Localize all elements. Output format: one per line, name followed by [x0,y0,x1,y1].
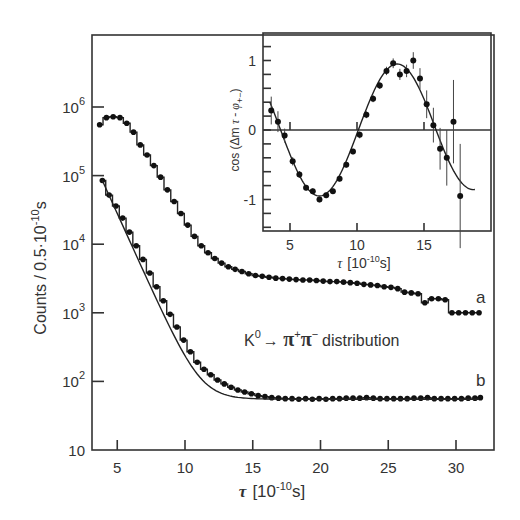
series-b-point [201,367,207,373]
inset-data-point [282,133,288,139]
inset-data-point [377,83,383,89]
inset-data-point [343,162,349,168]
series-b-point [188,349,194,355]
inset-data-point [457,193,463,199]
inset-data-point [424,101,430,107]
series-a-point [361,282,367,288]
series-a-point [280,276,286,282]
series-a-point [117,115,123,121]
series-a-point [198,243,204,249]
series-a-point [307,277,313,283]
x-tick-label: 25 [380,459,397,476]
series-a-point [436,296,442,302]
inset-data-point [397,71,403,77]
series-b-point [174,324,180,330]
series-b-point [235,387,241,393]
series-a-label: a [476,288,486,307]
y-axis-label: Counts / 0.5·10-10s [29,201,49,334]
inset-data-point [370,96,376,102]
series-a-point [469,310,475,316]
series-a-point [334,279,340,285]
series-b-point [154,284,160,290]
inset-x-axis-label: τ[10-10s] [337,254,390,271]
series-a-point [259,274,265,280]
series-a-point [104,115,110,121]
inset-data-point [390,60,396,66]
inset-data-point [310,188,316,194]
inset-data-point [275,119,281,125]
inset-data-point [444,155,450,161]
x-tick-label: 10 [177,459,194,476]
series-a-point [395,286,401,292]
series-b-label: b [476,371,485,390]
series-a-point [327,279,333,285]
inset-x-tick-label: 15 [416,237,432,253]
series-b-point [127,229,133,235]
series-a-point [463,310,469,316]
series-b-point [208,372,214,378]
y-tick-label: 106 [62,95,85,116]
series-a-point [287,276,293,282]
inset-data-point [383,68,389,74]
inset-data-point [323,192,329,198]
y-tick-label: 10 [68,442,85,459]
series-b-point [228,385,234,391]
series-a-point [266,274,272,280]
inset-x-tick-label: 5 [286,237,294,253]
series-a-point [348,280,354,286]
series-a-point [131,129,137,135]
series-a-point [185,222,191,228]
inset-data-point [316,197,322,203]
y-tick-label: 102 [62,369,85,390]
inset-data-point [268,108,274,114]
series-b-point [465,395,471,401]
y-tick-label: 104 [62,232,85,253]
x-tick-label: 15 [244,459,261,476]
series-a-point [293,277,299,283]
series-a-point [97,122,103,128]
series-a-point [300,277,306,283]
series-a-point [158,174,164,180]
series-a-point [273,275,279,281]
inset-data-point [337,176,343,182]
series-a-point [246,271,252,277]
series-a-point [476,310,482,316]
inset-data-point [417,76,423,82]
series-b-point [133,243,139,249]
series-b-point [472,395,478,401]
series-b-point [343,395,349,401]
series-b-point [221,381,227,387]
series-b-point [167,312,173,318]
y-tick-label: 105 [62,164,85,185]
series-a-point [165,187,171,193]
series-b-point [371,395,377,401]
series-a-point [239,269,245,275]
series-a-point [381,284,387,290]
series-b-point [161,298,167,304]
series-a-point [219,260,225,266]
series-a-point [171,199,177,205]
inset-data-point [404,68,410,74]
series-a-point [144,152,150,158]
series-a-point [124,120,130,126]
series-a-point [226,264,232,270]
series-a-point [192,234,198,240]
series-a-point [456,310,462,316]
series-a-point [408,290,414,296]
series-a-point [151,163,157,169]
inset-data-point [296,171,302,177]
series-b-point [357,395,363,401]
inset-data-point [330,188,336,194]
series-a-point [212,256,218,262]
series-a-point [402,289,408,295]
series-b-point [242,389,248,395]
y-tick-label: 103 [62,301,85,322]
inset-data-point [437,146,443,152]
inset-y-tick-label: 0 [248,122,256,138]
inset-x-tick-label: 10 [349,237,365,253]
inset-plot: 51015-101cos (Δm τ - φ+−)τ[10-10s] [228,33,491,271]
series-a-point [110,114,116,120]
chart-svg: 5101520253010102103104105106τ[10-10s]Cou… [0,0,520,520]
x-axis-label: τ[10-10s] [239,480,305,501]
series-a-point [354,280,360,286]
